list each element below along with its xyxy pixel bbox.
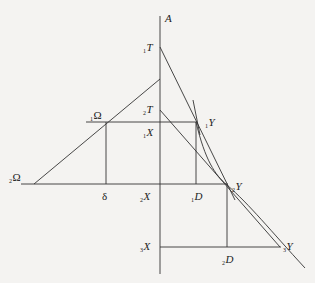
label-x3: 3X [140, 241, 150, 253]
label-t1: 1T [143, 42, 153, 54]
label-omega2: 2Ω [9, 172, 21, 184]
label-y1: 1Y [205, 117, 215, 129]
label-x1: 1X [143, 127, 153, 139]
label-x2: 2X [140, 191, 150, 203]
tangent-line-y1 [193, 100, 200, 135]
label-omega1: 1Ω [90, 110, 102, 122]
label-a: A [165, 13, 172, 24]
label-t2: 2T [143, 104, 153, 116]
diagonal-omega-line [34, 79, 160, 184]
label-delta: δ [102, 191, 107, 202]
label-y2: 2Y [232, 181, 242, 193]
diagram-canvas [0, 0, 315, 283]
label-d1: 1D [191, 191, 202, 203]
label-d2: 2D [222, 254, 233, 266]
label-y3: 3Y [283, 241, 293, 253]
